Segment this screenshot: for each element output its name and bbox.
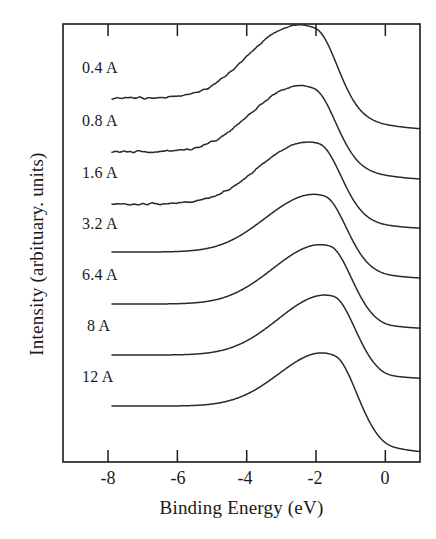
spectra-figure: Intensity (arbituary. units) Binding Ene… [0,0,436,539]
plot-svg [0,0,436,539]
curve-1-6-a [112,142,420,228]
curve-3-2-a [112,194,420,278]
curve-6-4-a [112,245,420,328]
curves-group [112,25,420,452]
curve-0-4-a [112,25,420,129]
curve-0-8-a [112,86,420,179]
axis-ticks [108,24,385,462]
curve-12-a [112,353,420,452]
curve-8-a [112,295,420,378]
